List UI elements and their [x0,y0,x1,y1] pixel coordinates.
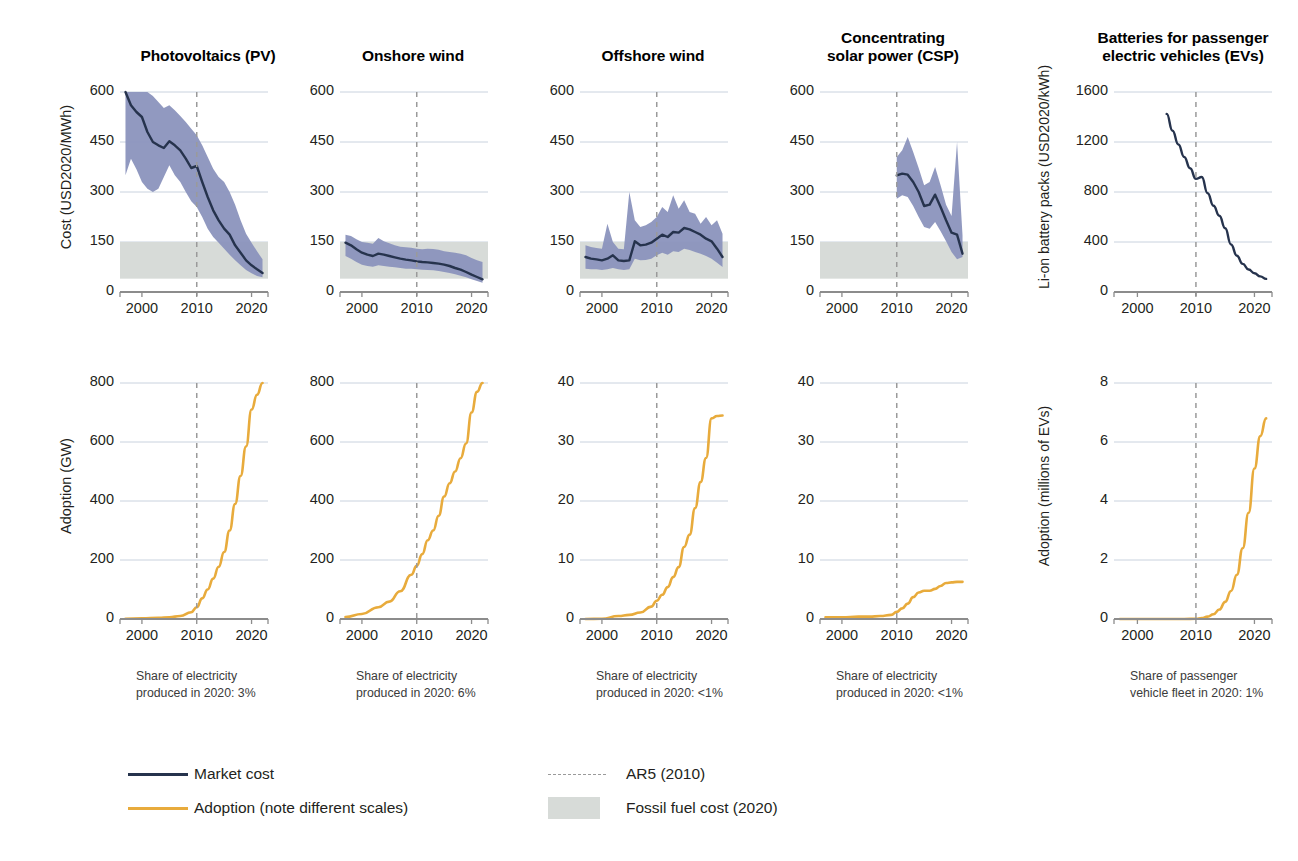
x-tick-label: 2020 [226,627,278,643]
x-tick-label: 2010 [1170,300,1222,316]
legend-swatch-fossil [548,797,626,819]
y-tick-label: 300 [550,182,574,198]
x-tick-label: 2020 [226,300,278,316]
y-tick-label: 400 [90,491,114,507]
legend: Market costAdoption (note different scal… [128,757,1008,837]
panel-title-csp: Concentratingsolar power (CSP) [778,29,1008,66]
y-tick-label: 200 [310,550,334,566]
y-tick-label: 600 [550,82,574,98]
y-tick-label: 600 [310,82,334,98]
cost-axis-label-pv: Cost (USD2020/MWh) [58,62,74,292]
y-tick-label: 2 [1100,550,1108,566]
x-tick-label: 2000 [816,300,868,316]
panel-title-pv: Photovoltaics (PV) [113,47,303,65]
cost-plot-csp: 0150300450600200020102020 [820,92,974,326]
line-swatch-icon [128,807,188,810]
panel-title-line: Offshore wind [558,47,748,65]
share-note-offshore-wind: Share of electricity produced in 2020: <… [596,668,806,701]
x-tick-label: 2010 [391,300,443,316]
x-tick-label: 2010 [1170,627,1222,643]
y-tick-label: 450 [90,132,114,148]
panel-title-onshore-wind: Onshore wind [318,47,508,65]
legend-label: Fossil fuel cost (2020) [626,799,778,817]
x-tick-label: 2020 [1228,627,1280,643]
x-tick-label: 2000 [816,627,868,643]
legend-swatch-adoption [128,807,194,810]
cost-plot-pv: 0150300450600200020102020 [120,92,274,326]
y-tick-label: 0 [326,282,334,298]
y-tick-label: 0 [1100,282,1108,298]
line-swatch-icon [128,773,188,776]
y-tick-label: 450 [550,132,574,148]
y-tick-label: 150 [550,232,574,248]
y-tick-label: 300 [310,182,334,198]
legend-item-market-cost[interactable]: Market cost [128,757,548,791]
legend-item-ar5[interactable]: AR5 (2010) [548,757,978,791]
x-tick-label: 2010 [171,300,223,316]
y-tick-label: 4 [1100,491,1108,507]
x-tick-label: 2000 [1111,627,1163,643]
legend-label: AR5 (2010) [626,765,705,783]
y-tick-label: 20 [558,491,574,507]
panel-title-batteries: Batteries for passengerelectric vehicles… [1058,29,1298,66]
y-tick-label: 1200 [1076,132,1108,148]
y-tick-label: 1600 [1076,82,1108,98]
x-tick-label: 2020 [926,300,978,316]
y-tick-label: 150 [310,232,334,248]
y-tick-label: 0 [326,609,334,625]
adoption-plot-batteries: 02468200020102020 [1114,383,1278,653]
x-tick-label: 2000 [336,300,388,316]
adoption-plot-pv: 0200400600800200020102020 [120,383,274,653]
x-tick-label: 2020 [686,627,738,643]
y-tick-label: 0 [566,609,574,625]
panel-title-line: Photovoltaics (PV) [113,47,303,65]
adoption-axis-label-batteries: Adoption (millions of EVs) [1036,353,1052,619]
y-tick-label: 600 [90,82,114,98]
dashed-line-icon [548,774,606,775]
y-tick-label: 40 [798,373,814,389]
y-tick-label: 8 [1100,373,1108,389]
filled-box-icon [548,797,600,819]
y-tick-label: 10 [798,550,814,566]
x-tick-label: 2010 [391,627,443,643]
cost-plot-batteries: 040080012001600200020102020 [1114,92,1278,326]
x-tick-label: 2020 [446,627,498,643]
adoption-axis-label-pv: Adoption (GW) [58,353,74,619]
x-tick-label: 2010 [171,627,223,643]
y-tick-label: 150 [90,232,114,248]
x-tick-label: 2020 [926,627,978,643]
y-tick-label: 6 [1100,432,1108,448]
x-tick-label: 2000 [116,627,168,643]
panel-title-line: solar power (CSP) [778,47,1008,65]
cost-axis-label-batteries: Li-on battery packs (USD2020/kWh) [1036,62,1052,292]
legend-column-series: Market costAdoption (note different scal… [128,757,548,825]
share-note-csp: Share of electricity produced in 2020: <… [836,668,1046,701]
x-tick-label: 2010 [871,300,923,316]
figure-root: Photovoltaics (PV)0150300450600200020102… [0,0,1298,861]
adoption-plot-offshore-wind: 010203040200020102020 [580,383,734,653]
y-tick-label: 400 [1084,232,1108,248]
legend-label: Adoption (note different scales) [194,799,408,817]
x-tick-label: 2000 [336,627,388,643]
y-tick-label: 150 [790,232,814,248]
y-tick-label: 800 [310,373,334,389]
y-tick-label: 30 [558,432,574,448]
cost-plot-offshore-wind: 0150300450600200020102020 [580,92,734,326]
share-note-batteries: Share of passenger vehicle fleet in 2020… [1130,668,1298,701]
share-note-onshore-wind: Share of electricity produced in 2020: 6… [356,668,566,701]
panel-title-line: Batteries for passenger [1058,29,1298,47]
legend-swatch-ar5 [548,774,626,775]
y-tick-label: 0 [566,282,574,298]
y-tick-label: 40 [558,373,574,389]
y-tick-label: 0 [1100,609,1108,625]
y-tick-label: 800 [90,373,114,389]
y-tick-label: 30 [798,432,814,448]
cost-plot-onshore-wind: 0150300450600200020102020 [340,92,494,326]
x-tick-label: 2020 [446,300,498,316]
panel-title-line: electric vehicles (EVs) [1058,47,1298,65]
y-tick-label: 450 [310,132,334,148]
y-tick-label: 20 [798,491,814,507]
panel-title-line: Concentrating [778,29,1008,47]
legend-item-fossil[interactable]: Fossil fuel cost (2020) [548,791,978,825]
legend-item-adoption[interactable]: Adoption (note different scales) [128,791,548,825]
